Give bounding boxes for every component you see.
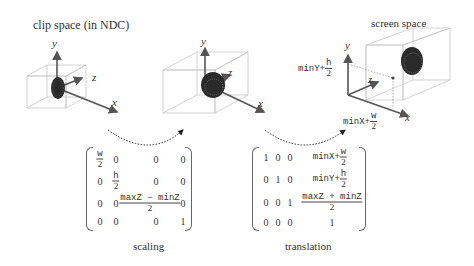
clip-axis-z-label: z [92,71,96,83]
minX-annotation: minX+w2 [343,112,377,131]
clip-space-title: clip space (in NDC) [33,18,129,33]
scaled-object [201,72,225,98]
screen-space-title: screen space [371,17,426,29]
scaling-caption: scaling [133,240,164,252]
translation-caption: translation [285,240,331,252]
screen-axis-z-label: z [368,73,372,85]
translation-cell-2-3: maxZ + minZ2 [301,193,362,212]
scaling-cell-1-2: 0 [154,176,159,187]
scaling-cell-0-3: 0 [181,154,186,165]
right-paren [359,147,366,231]
screen-axis-y-label: y [345,39,350,51]
scaling-cell-2-2: maxZ − minZ2 [119,194,180,213]
scaled-axis-y-label: y [201,35,206,47]
minY-annotation: minY+h2 [298,59,332,78]
screen-center-point [391,76,394,79]
scaling-cell-1-1: h2 [112,172,119,191]
translation-cell-1-0: 0 [264,174,269,185]
translation-cell-1-2: 0 [288,174,293,185]
left-paren [252,147,259,231]
translation-cell-2-1: 0 [276,197,281,208]
scaling-cell-2-0: 0 [98,198,103,209]
translation-cell-0-2: 0 [288,152,293,163]
translation-cell-0-1: 0 [276,152,281,163]
scaling-cell-1-0: 0 [98,176,103,187]
left-paren [86,147,93,231]
minX-prefix: minX+ [343,117,370,127]
scaling-cell-3-0: 0 [98,216,103,227]
translation-cell-1-3: minY+h2 [313,170,347,189]
scaled-axis-z-label: z [228,66,232,78]
clip-axis-y-label: y [52,37,57,49]
diagram-canvas [0,0,474,266]
screen-axis-x-label: x [405,111,410,123]
scaling-cell-1-3: 0 [181,176,186,187]
scaling-cell-0-0: w2 [96,150,103,169]
translation-cell-0-3: minX+w2 [313,148,347,167]
scaling-cell-3-3: 1 [181,216,186,227]
scaled-axis-x-label: x [258,97,263,109]
minY-den: 2 [326,69,331,78]
translation-cell-2-0: 0 [264,197,269,208]
scaling-cell-0-2: 0 [154,154,159,165]
clip-axis-x-label: x [112,96,117,108]
scaling-matrix: w2 0 0 0 0 h2 0 0 0 0 maxZ − minZ2 0 0 0… [86,147,192,231]
translation-cell-3-2: 0 [288,217,293,228]
scaling-cell-3-2: 0 [154,216,159,227]
minX-den: 2 [371,122,376,131]
scaling-cell-3-1: 0 [114,216,119,227]
arrow-scaled-to-screen [265,130,345,145]
translation-cell-2-2: 1 [288,197,293,208]
arrow-clip-to-scaled [108,130,183,145]
screen-space-axes [348,55,408,116]
screen-space-object [401,47,423,75]
translation-cell-1-1: 1 [276,174,281,185]
scaling-cell-0-1: 0 [114,154,119,165]
translation-cell-3-3: 1 [330,217,335,228]
translation-cell-3-1: 0 [276,217,281,228]
minY-prefix: minY+ [298,64,325,74]
scaling-cell-2-1: 0 [114,198,119,209]
translation-cell-3-0: 0 [264,217,269,228]
translation-matrix: 1 0 0 minX+w2 0 1 0 minY+h2 0 0 1 maxZ +… [252,147,366,231]
right-paren [185,147,192,231]
translation-cell-0-0: 1 [264,152,269,163]
clip-space-object [51,77,65,99]
scaling-cell-2-3: 0 [181,198,186,209]
